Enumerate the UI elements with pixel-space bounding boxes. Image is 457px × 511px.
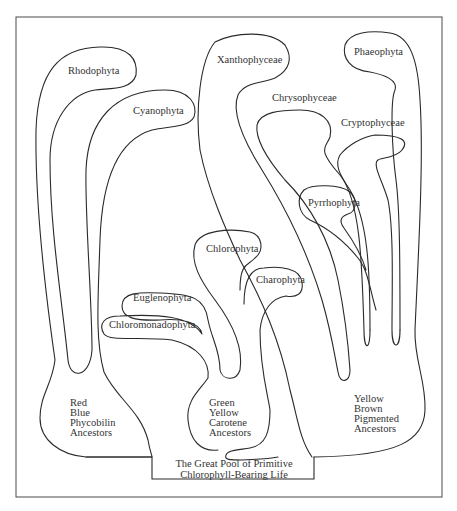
- algae-phylogeny-diagram: Rhodophyta Cyanophyta Xanthophyceae Chry…: [0, 0, 457, 511]
- ancestor-line: Ancestors: [354, 424, 399, 434]
- root-pool-label: The Great Pool of Primitive Chlorophyll-…: [160, 458, 308, 480]
- ancestor-line: Ancestors: [209, 428, 251, 438]
- ancestor-group-yellow-brown: Yellow Brown Pigmented Ancestors: [354, 394, 399, 434]
- label-chlorophyta: Chlorophyta: [206, 244, 259, 255]
- label-chloromonadophyta: Chloromonadophyta: [109, 320, 195, 331]
- label-phaeophyta: Phaeophyta: [354, 47, 403, 58]
- ancestor-group-green-yellow: Green Yellow Carotene Ancestors: [209, 398, 251, 438]
- label-charophyta: Charophyta: [256, 275, 305, 286]
- label-cryptophyceae: Cryptophyceae: [341, 118, 405, 129]
- root-pool-line-2: Chlorophyll-Bearing Life: [160, 469, 308, 480]
- label-xanthophyceae: Xanthophyceae: [217, 55, 282, 66]
- label-chrysophyceae: Chrysophyceae: [272, 93, 337, 104]
- ancestor-line: Ancestors: [70, 428, 116, 438]
- root-pool-line-1: The Great Pool of Primitive: [160, 458, 308, 469]
- label-euglenophyta: Euglenophyta: [133, 293, 191, 304]
- ancestor-group-red-blue: Red Blue Phycobilin Ancestors: [70, 398, 116, 438]
- label-rhodophyta: Rhodophyta: [68, 66, 119, 77]
- label-pyrrhophyta: Pyrrhophyta: [308, 198, 360, 209]
- label-cyanophyta: Cyanophyta: [133, 106, 184, 117]
